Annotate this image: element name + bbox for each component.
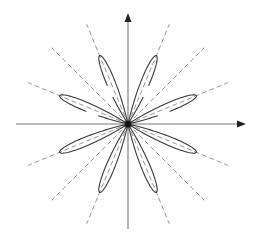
dashed-ray <box>28 83 128 124</box>
dashed-ray <box>87 24 128 124</box>
dashed-ray <box>128 124 169 224</box>
dashed-ray <box>128 24 169 124</box>
y-axis-arrowhead-icon <box>125 13 132 22</box>
origin-point <box>125 121 131 127</box>
dashed-ray <box>28 124 128 165</box>
dashed-ray <box>128 83 228 124</box>
dashed-ray <box>87 124 128 224</box>
dashed-ray <box>128 124 228 165</box>
x-axis-arrowhead-icon <box>237 121 246 128</box>
polar-rose-diagram <box>0 0 258 240</box>
